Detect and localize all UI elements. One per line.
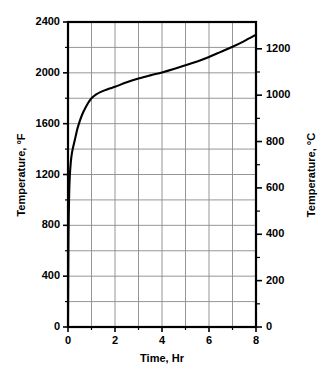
left-axis-tick-label: 400 (42, 270, 60, 281)
left-axis-tick-label: 1600 (36, 118, 60, 129)
right-axis-tick-label: 200 (266, 275, 284, 286)
right-axis-tick-label: 1000 (266, 89, 290, 100)
right-axis-tick-label: 400 (266, 228, 284, 239)
right-axis-tick-label: 800 (266, 136, 284, 147)
chart-figure: 04008001200160020002400 0200400600800100… (0, 0, 322, 380)
y-axis-title-right: Temperature, °C (306, 132, 317, 216)
x-axis-title: Time, Hr (122, 353, 202, 364)
left-axis-tick-label: 800 (42, 219, 60, 230)
left-axis-tick-label: 2000 (36, 67, 60, 78)
left-axis-tick-label: 2400 (36, 16, 60, 27)
x-axis-tick-label: 4 (142, 335, 182, 346)
left-axis-tick-label: 1200 (36, 169, 60, 180)
x-axis-tick-label: 8 (236, 335, 276, 346)
right-axis-tick-label: 1200 (266, 43, 290, 54)
y-axis-title-left: Temperature, °F (16, 133, 27, 216)
x-axis-tick-label: 6 (189, 335, 229, 346)
left-axis-tick-label: 0 (54, 321, 60, 332)
x-axis-tick-label: 0 (48, 335, 88, 346)
right-axis-tick-label: 600 (266, 182, 284, 193)
x-axis-tick-label: 2 (95, 335, 135, 346)
right-axis-tick-label: 0 (266, 321, 272, 332)
gridlines (68, 22, 256, 327)
